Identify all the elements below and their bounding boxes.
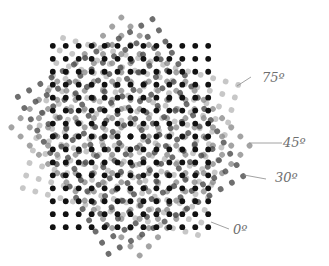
halftone-rosette-diagram: 75º 45º 30º 0º [0, 0, 329, 266]
label-0-degrees: 0º [233, 222, 247, 237]
label-75-degrees: 75º [262, 70, 285, 85]
angle-labels: 75º 45º 30º 0º [233, 70, 306, 237]
leader-line-screen-30 [244, 175, 266, 179]
leader-line-screen-0 [211, 222, 229, 229]
label-30-degrees: 30º [275, 170, 298, 185]
leader-line-screen-75 [237, 77, 251, 86]
label-45-degrees: 45º [282, 135, 306, 150]
dot-screens [7, 13, 253, 259]
